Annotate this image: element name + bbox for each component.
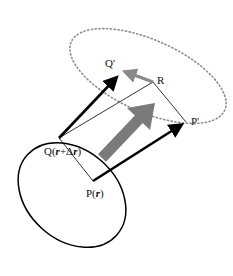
label-q-close: ) (77, 145, 81, 157)
label-p-r: P(r) (86, 188, 104, 199)
label-q-prime: Q' (105, 58, 115, 69)
label-p-prime: P' (191, 116, 199, 127)
arrow-q-to-qprime (59, 78, 116, 138)
translation-arrow (102, 103, 155, 158)
label-p-text: P( (86, 187, 96, 199)
label-p-close: ) (100, 187, 104, 199)
line-r-pprime (153, 82, 186, 122)
arrow-r-to-qprime (126, 72, 153, 82)
label-r: R (157, 75, 164, 86)
diagram-canvas (0, 0, 233, 276)
label-q-r-delta: Q(r+Δr) (44, 146, 81, 157)
label-q-delta: +Δ (60, 145, 73, 157)
label-q-text: Q( (44, 145, 56, 157)
original-ellipse (0, 121, 147, 268)
